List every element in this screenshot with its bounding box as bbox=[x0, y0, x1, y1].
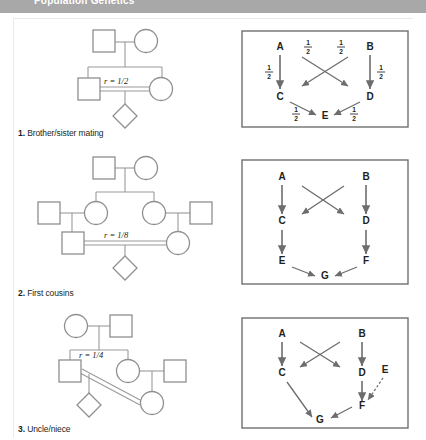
symbol-square-male bbox=[164, 360, 186, 382]
path-node-A: A bbox=[278, 171, 285, 182]
symbol-circle-female bbox=[135, 157, 158, 180]
symbol-circle-female bbox=[141, 392, 164, 415]
path-node-E: E bbox=[279, 255, 286, 266]
symbol-circle-female bbox=[143, 202, 166, 225]
caption-1-number: 1. bbox=[18, 128, 25, 138]
symbol-circle-female bbox=[150, 78, 173, 101]
svg-text:1: 1 bbox=[352, 106, 356, 113]
symbol-diamond-offspring bbox=[113, 104, 137, 128]
symbol-circle-female bbox=[65, 315, 88, 338]
symbol-circle-female bbox=[135, 30, 158, 53]
relatedness-label-2: r = 1/8 bbox=[104, 230, 129, 240]
symbol-square-male bbox=[62, 232, 84, 254]
caption-2-text: First cousins bbox=[25, 288, 74, 298]
path-node-C: C bbox=[278, 367, 285, 378]
path-node-E: E bbox=[322, 110, 329, 121]
symbol-diamond-offspring bbox=[113, 256, 137, 280]
panel-3-path-diagram: A B C D E F G bbox=[240, 312, 412, 434]
path-diagram-2: A B C D E F G bbox=[240, 152, 412, 290]
caption-3: 3. Uncle/niece bbox=[18, 424, 70, 434]
symbol-circle-female bbox=[167, 232, 190, 255]
svg-text:2: 2 bbox=[339, 48, 343, 55]
svg-text:1: 1 bbox=[306, 39, 310, 46]
symbol-square-male bbox=[59, 360, 81, 382]
pedigree-diagram-2: r = 1/8 bbox=[18, 150, 228, 285]
caption-1: 1. Brother/sister mating bbox=[18, 128, 103, 138]
panel-1-pedigree: r = 1/2 bbox=[18, 22, 228, 127]
path-node-E: E bbox=[382, 364, 389, 375]
path-node-F: F bbox=[363, 255, 369, 266]
svg-text:1: 1 bbox=[339, 39, 343, 46]
top-rule bbox=[13, 18, 413, 19]
path-node-D: D bbox=[366, 91, 373, 102]
caption-3-number: 3. bbox=[18, 424, 25, 434]
path-node-B: B bbox=[362, 171, 369, 182]
svg-text:1: 1 bbox=[267, 64, 271, 71]
running-head-title: Population Genetics bbox=[34, 0, 134, 6]
svg-text:2: 2 bbox=[352, 115, 356, 122]
path-node-C: C bbox=[276, 91, 283, 102]
svg-text:2: 2 bbox=[379, 73, 383, 80]
symbol-square-male bbox=[93, 157, 115, 179]
path-node-B: B bbox=[366, 41, 373, 52]
symbol-square-male bbox=[78, 78, 100, 100]
svg-text:2: 2 bbox=[267, 73, 271, 80]
symbol-circle-female bbox=[85, 202, 108, 225]
svg-text:1: 1 bbox=[379, 64, 383, 71]
caption-2: 2. First cousins bbox=[18, 288, 74, 298]
running-head-bar: Population Genetics bbox=[0, 0, 426, 13]
path-node-C: C bbox=[278, 215, 285, 226]
caption-2-number: 2. bbox=[18, 288, 25, 298]
path-node-D: D bbox=[362, 215, 369, 226]
caption-1-text: Brother/sister mating bbox=[25, 128, 104, 138]
symbol-square-male bbox=[93, 30, 115, 52]
svg-text:1: 1 bbox=[294, 106, 298, 113]
path-diagram-1: A B C D E 1 2 1 2 1 2 bbox=[240, 28, 412, 132]
symbol-square-male bbox=[38, 202, 60, 224]
path-node-G: G bbox=[321, 270, 329, 281]
panel-2-path-diagram: A B C D E F G bbox=[240, 152, 412, 290]
path-diagram-frame bbox=[242, 160, 408, 284]
relatedness-label-1: r = 1/2 bbox=[104, 76, 129, 86]
pedigree-diagram-3: r = 1/4 bbox=[18, 308, 228, 426]
path-node-A: A bbox=[278, 328, 285, 339]
path-node-A: A bbox=[276, 41, 283, 52]
panel-3-pedigree: r = 1/4 bbox=[18, 308, 228, 426]
symbol-circle-female bbox=[117, 360, 140, 383]
path-node-D: D bbox=[358, 367, 365, 378]
relatedness-label-3: r = 1/4 bbox=[79, 350, 104, 360]
panel-2-pedigree: r = 1/8 bbox=[18, 150, 228, 285]
symbol-diamond-offspring bbox=[77, 393, 101, 417]
caption-3-text: Uncle/niece bbox=[25, 424, 71, 434]
svg-text:2: 2 bbox=[294, 115, 298, 122]
svg-text:2: 2 bbox=[306, 48, 310, 55]
symbol-square-male bbox=[110, 315, 132, 337]
pedigree-diagram-1: r = 1/2 bbox=[18, 22, 228, 127]
symbol-square-male bbox=[190, 202, 212, 224]
path-node-F: F bbox=[359, 400, 365, 411]
panel-1-path-diagram: A B C D E 1 2 1 2 1 2 bbox=[240, 28, 412, 132]
path-node-G: G bbox=[316, 414, 324, 425]
path-diagram-3: A B C D E F G bbox=[240, 312, 412, 434]
margin-rule bbox=[13, 18, 14, 438]
path-node-B: B bbox=[358, 328, 365, 339]
